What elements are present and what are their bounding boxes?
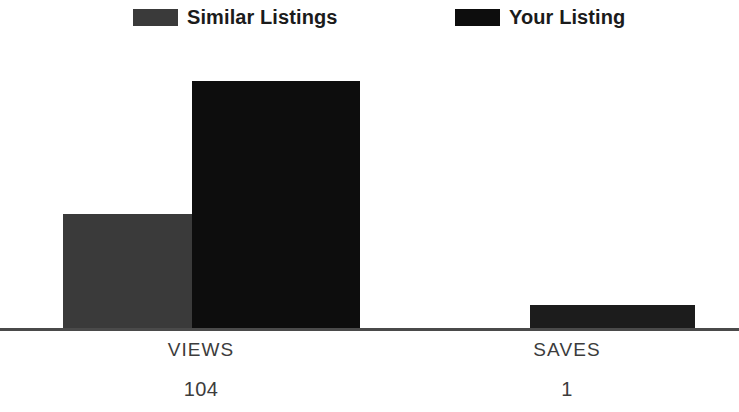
category-label-views: VIEWS [101,340,301,359]
x-axis-baseline [0,328,739,331]
listing-performance-bar-chart: Similar Listings Your Listing VIEWS 104 … [0,0,739,412]
category-label-saves: SAVES [467,340,667,359]
bar-views-similar-listings [63,214,192,328]
category-value-saves: 1 [467,379,667,399]
category-group-saves: SAVES 1 [467,340,667,399]
bar-saves-your-listing [530,305,695,328]
category-value-views: 104 [101,379,301,399]
bar-views-your-listing [192,81,360,328]
category-group-views: VIEWS 104 [101,340,301,399]
